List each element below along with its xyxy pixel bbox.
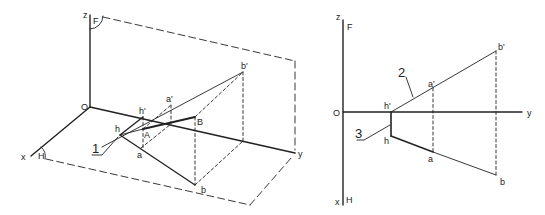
label-z-left: z: [83, 10, 88, 20]
horizontal-projection-a-b: [433, 152, 496, 175]
left-3d-view: [31, 15, 295, 205]
projection-connectors: [141, 72, 243, 185]
label-O-left: O: [81, 102, 88, 112]
label-A-left: A: [144, 130, 150, 140]
label-H-left: H: [38, 151, 45, 161]
right-epure-view: [343, 20, 522, 205]
label-h-left: h: [115, 124, 120, 134]
y-axis: [90, 107, 295, 153]
label-h-right: h: [384, 136, 389, 146]
label-x-left: x: [21, 152, 26, 162]
label-O-right: O: [333, 108, 340, 118]
callout-2-leader: [406, 77, 413, 97]
right-labels: z F O y x H h' h a' a b' b 2 3: [333, 12, 532, 207]
callout-1: 1: [92, 141, 99, 156]
descriptive-geometry-figure: z F O x H y b' a' h' h A B a b 1: [0, 0, 545, 215]
label-a-left: a: [137, 150, 142, 160]
frontal-projection-line: [102, 72, 243, 147]
label-y-right: y: [527, 108, 532, 118]
label-F-right: F: [347, 22, 353, 32]
label-bprime-left: b': [241, 61, 248, 71]
label-B-left: B: [197, 117, 203, 127]
label-z-right: z: [336, 12, 341, 22]
frontal-plane-outline: [103, 17, 295, 150]
horizontal-plane-outline: [46, 157, 292, 205]
label-y-left: y: [298, 149, 303, 159]
label-aprime-left: a': [166, 94, 173, 104]
label-b-left: b: [201, 185, 206, 195]
left-labels: z F O x H y b' a' h' h A B a b 1: [21, 10, 303, 195]
label-a-right: a: [428, 154, 433, 164]
label-x-right: x: [335, 197, 340, 207]
label-bprime-right: b': [498, 42, 505, 52]
callout-2: 2: [398, 65, 405, 80]
label-aprime-right: a': [428, 79, 435, 89]
frontal-projection-hprime-bprime: [391, 51, 496, 112]
callout-3: 3: [355, 126, 362, 141]
label-F-left: F: [93, 16, 99, 26]
horizontal-projection-line: [120, 135, 195, 185]
horizontal-projection-h-a: [391, 136, 433, 152]
label-H-right: H: [346, 195, 353, 205]
label-b-right: b: [500, 177, 505, 187]
label-hprime-right: h': [384, 101, 391, 111]
segment-AB: [143, 117, 195, 129]
x-axis: [31, 107, 90, 156]
label-hprime-left: h': [139, 106, 146, 116]
